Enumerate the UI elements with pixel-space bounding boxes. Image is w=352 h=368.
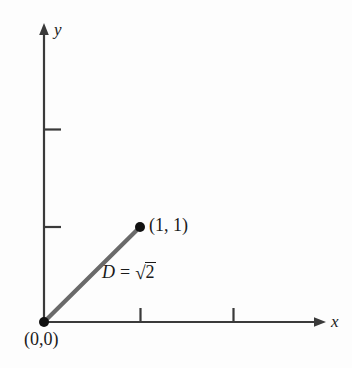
equals-sign: = [120,262,130,282]
radicand-value: 2 [145,262,156,281]
data-point-marker [135,222,145,232]
x-axis-label: x [331,313,339,330]
origin-point-marker [39,317,49,327]
x-axis-arrowhead [314,317,326,327]
y-axis-arrowhead [39,23,49,35]
distance-figure: y x (1, 1) (0,0) D=√2 [0,0,352,368]
coordinate-plot-canvas [0,0,352,368]
y-axis-label: y [54,21,62,38]
square-root-expression: √2 [134,262,155,282]
data-point-label: (1, 1) [149,216,188,234]
distance-symbol: D [102,262,115,282]
origin-point-label: (0,0) [24,330,59,348]
distance-annotation: D=√2 [102,262,156,282]
